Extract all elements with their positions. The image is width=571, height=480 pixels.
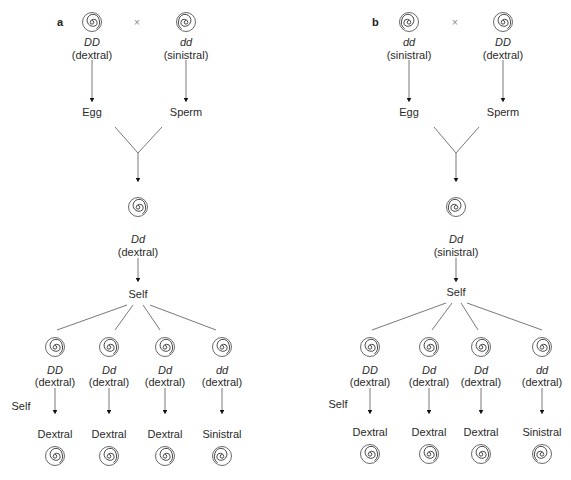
connector-lines: [0, 0, 571, 480]
shell-dextral-icon: [154, 336, 176, 358]
shell-dextral-icon: [359, 336, 381, 358]
f2-phenotype-label: (dextral): [409, 376, 449, 389]
shell-dextral-icon: [81, 11, 103, 33]
panel-label-b: b: [372, 16, 379, 28]
shell-sinistral-icon: [211, 445, 233, 467]
shell-dextral-icon: [531, 336, 553, 358]
shell-dextral-icon: [470, 443, 492, 465]
offspring-label: Sinistral: [522, 426, 561, 439]
shell-dextral-icon: [418, 336, 440, 358]
f1-genotype-label: Dd: [131, 233, 145, 246]
offspring-label: Dextral: [38, 428, 73, 441]
genotype-label: DD: [495, 36, 511, 49]
cross-symbol: ×: [452, 17, 458, 28]
genotype-label: dd: [180, 36, 192, 49]
f2-phenotype-label: (dextral): [461, 376, 501, 389]
offspring-label: Dextral: [464, 426, 499, 439]
f1-phenotype-label: (dextral): [118, 246, 158, 259]
f2-self-label: Self: [12, 400, 31, 413]
gamete-sperm-label: Sperm: [487, 106, 519, 119]
shell-dextral-icon: [418, 443, 440, 465]
shell-sinistral-icon: [175, 11, 197, 33]
gamete-egg-label: Egg: [399, 106, 419, 119]
phenotype-label: (dextral): [483, 49, 523, 62]
genotype-label: dd: [403, 36, 415, 49]
shell-dextral-icon: [127, 196, 149, 218]
shell-dextral-icon: [44, 445, 66, 467]
phenotype-label: (dextral): [72, 49, 112, 62]
offspring-label: Dextral: [148, 428, 183, 441]
shell-dextral-icon: [211, 336, 233, 358]
shell-sinistral-icon: [398, 11, 420, 33]
f2-phenotype-label: (dextral): [522, 376, 562, 389]
shell-dextral-icon: [470, 336, 492, 358]
offspring-label: Sinistral: [202, 428, 241, 441]
shell-sinistral-icon: [531, 443, 553, 465]
offspring-label: Dextral: [412, 426, 447, 439]
f2-phenotype-label: (dextral): [89, 376, 129, 389]
shell-dextral-icon: [492, 11, 514, 33]
shell-dextral-icon: [359, 443, 381, 465]
self-label: Self: [129, 288, 148, 301]
panel-label-a: a: [57, 16, 63, 28]
f1-phenotype-label: (sinistral): [434, 246, 479, 259]
f1-genotype-label: Dd: [449, 233, 463, 246]
cross-symbol: ×: [134, 17, 140, 28]
f2-phenotype-label: (dextral): [35, 376, 75, 389]
gamete-egg-label: Egg: [82, 106, 102, 119]
offspring-label: Dextral: [92, 428, 127, 441]
f2-phenotype-label: (dextral): [350, 376, 390, 389]
phenotype-label: (sinistral): [387, 49, 432, 62]
shell-dextral-icon: [98, 445, 120, 467]
shell-dextral-icon: [44, 336, 66, 358]
shell-dextral-icon: [154, 445, 176, 467]
f2-phenotype-label: (dextral): [202, 376, 242, 389]
gamete-sperm-label: Sperm: [170, 106, 202, 119]
f2-self-label: Self: [329, 398, 348, 411]
shell-dextral-icon: [98, 336, 120, 358]
f2-phenotype-label: (dextral): [145, 376, 185, 389]
shell-sinistral-icon: [445, 196, 467, 218]
offspring-label: Dextral: [353, 426, 388, 439]
phenotype-label: (sinistral): [164, 49, 209, 62]
self-label: Self: [447, 286, 466, 299]
genotype-label: DD: [84, 36, 100, 49]
